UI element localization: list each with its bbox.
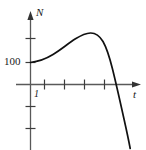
population-graph-figure: N t 100 1 [0,0,146,150]
x-axis-name-label: t [133,89,136,100]
y-axis-arrowhead [27,11,33,20]
x-axis-tick-label-1: 1 [34,89,39,99]
y-axis-tick-label-100: 100 [4,56,21,67]
x-axis-arrowhead [132,81,141,87]
y-axis-name-label: N [36,7,43,18]
population-curve [31,33,131,149]
plot-canvas [0,0,146,150]
